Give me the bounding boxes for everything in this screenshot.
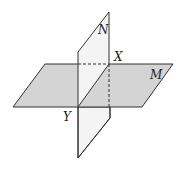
plane-n-lower bbox=[78, 107, 110, 158]
label-m: M bbox=[149, 68, 163, 82]
intersecting-planes-diagram: N X M Y bbox=[0, 0, 184, 169]
label-x: X bbox=[113, 50, 123, 64]
label-y: Y bbox=[63, 110, 72, 124]
label-n: N bbox=[97, 23, 109, 37]
